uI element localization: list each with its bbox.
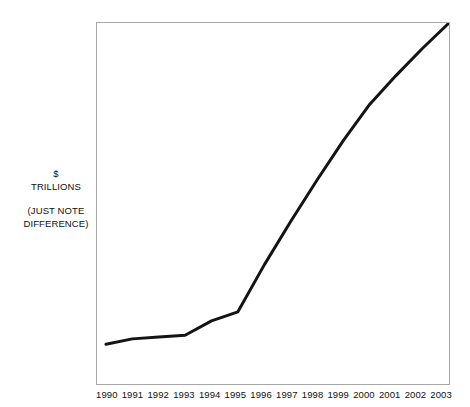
x-tick-label: 1998: [302, 389, 324, 401]
x-tick-label: 1993: [173, 389, 195, 401]
x-tick-label: 1994: [199, 389, 221, 401]
y-axis-unit-magnitude: TRILLIONS: [8, 181, 104, 194]
x-tick-label: 1991: [122, 389, 144, 401]
x-tick-label: 1990: [96, 389, 118, 401]
y-axis-label: $ TRILLIONS (JUST NOTE DIFFERENCE): [8, 168, 104, 230]
y-axis-note-line-2: DIFFERENCE): [8, 218, 104, 231]
plot-svg: [97, 23, 449, 384]
x-axis-tick-labels: 1990199119921993199419951996199719981999…: [96, 389, 452, 403]
x-tick-label: 2000: [353, 389, 375, 401]
x-tick-label: 2003: [430, 389, 452, 401]
x-tick-label: 1996: [250, 389, 272, 401]
x-tick-label: 2001: [379, 389, 401, 401]
data-series-line: [106, 23, 449, 344]
x-tick-label: 1997: [276, 389, 298, 401]
x-tick-label: 1992: [147, 389, 169, 401]
x-tick-label: 2002: [405, 389, 427, 401]
chart-page: $ TRILLIONS (JUST NOTE DIFFERENCE) 19901…: [0, 0, 470, 407]
y-axis-unit-currency: $: [8, 168, 104, 181]
x-tick-label: 1995: [225, 389, 247, 401]
y-axis-note-line-1: (JUST NOTE: [8, 205, 104, 218]
plot-frame: [96, 22, 450, 385]
x-tick-label: 1999: [327, 389, 349, 401]
